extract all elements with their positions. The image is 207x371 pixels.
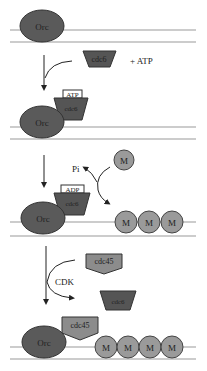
orc-label: Orc bbox=[36, 214, 50, 224]
mcm-label: M bbox=[168, 343, 176, 353]
mcm-label: M bbox=[168, 218, 176, 228]
mcm-label: M bbox=[124, 343, 132, 353]
mcm-label: M bbox=[146, 343, 154, 353]
stage-1: Orc cdc6 + ATP bbox=[10, 10, 196, 88]
stage-3: Pi ADP cdc6 Orc M M M bbox=[10, 155, 196, 236]
replication-licensing-diagram: Orc cdc6 + ATP ATP cdc6 Orc M Pi ADP cdc… bbox=[0, 0, 207, 371]
curve-arrow bbox=[45, 61, 72, 78]
cdc45-label: cdc45 bbox=[70, 321, 89, 330]
cdc6-label: cdc6 bbox=[111, 298, 125, 306]
curve-arrow bbox=[98, 167, 111, 203]
cdc6-label: cdc6 bbox=[91, 55, 106, 64]
mcm-label: M bbox=[145, 218, 153, 228]
mcm-label: M bbox=[120, 156, 128, 166]
cdc45-label: cdc45 bbox=[94, 257, 113, 266]
cdk-label: CDK bbox=[55, 277, 75, 287]
mcm-label: M bbox=[102, 343, 110, 353]
cdc6-label: cdc6 bbox=[64, 105, 78, 113]
orc-label: Orc bbox=[35, 22, 49, 32]
orc-label: Orc bbox=[35, 118, 49, 128]
orc-label: Orc bbox=[37, 338, 51, 348]
cdc6-label: cdc6 bbox=[65, 200, 79, 208]
curve-arrow bbox=[85, 168, 97, 182]
mcm-label: M bbox=[122, 218, 130, 228]
stage-2: ATP cdc6 Orc M bbox=[10, 90, 196, 170]
atp-label: + ATP bbox=[130, 56, 153, 66]
pi-label: Pi bbox=[72, 164, 80, 174]
stage-4: CDK cdc45 cdc6 Orc cdc45 M M M M bbox=[10, 246, 196, 359]
